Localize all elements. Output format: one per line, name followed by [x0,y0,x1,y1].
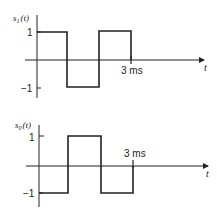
s0-x-tick-label: 3 ms [124,148,146,159]
s0-y-pos-label: 1 [29,132,35,143]
s1-waveform [37,31,131,87]
s1-ylabel: s1(t) [13,13,29,24]
waveform-diagram: s1(t) 1 −1 3 ms t s0(t) 1 −1 3 ms t [0,0,217,219]
s0-x-axis-label: t [206,168,209,179]
s1-y-neg-label: −1 [21,83,33,94]
s1-y-pos-label: 1 [27,27,33,38]
s1-x-axis-label: t [204,62,207,73]
plot-s1: s1(t) 1 −1 3 ms t [13,13,207,98]
s0-waveform [39,136,133,193]
s0-y-neg-label: −1 [23,188,35,199]
plot-s0: s0(t) 1 −1 3 ms t [15,120,209,207]
s0-ylabel: s0(t) [15,120,31,131]
s1-x-tick-label: 3 ms [121,65,143,76]
